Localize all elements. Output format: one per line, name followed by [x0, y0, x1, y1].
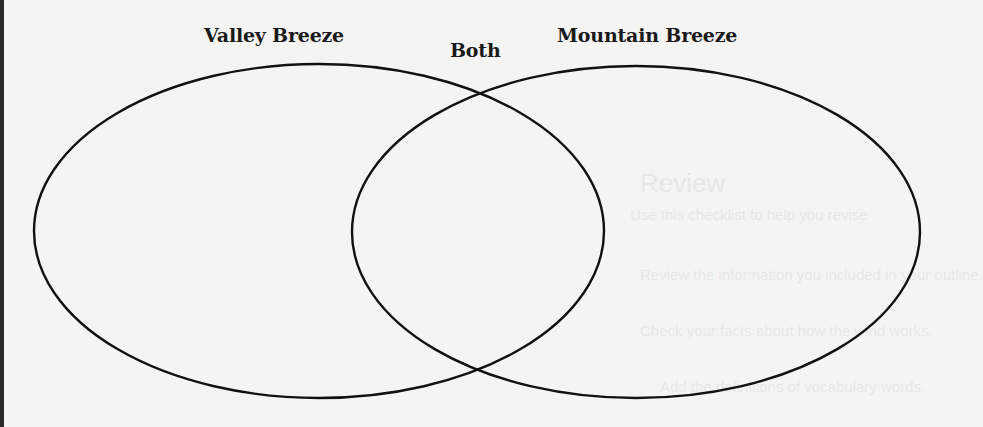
valley-breeze-label: Valley Breeze: [204, 26, 344, 45]
both-label: Both: [450, 41, 501, 60]
valley-breeze-ellipse: [34, 64, 604, 398]
mountain-breeze-label: Mountain Breeze: [557, 26, 737, 45]
mountain-breeze-ellipse: [352, 66, 920, 398]
